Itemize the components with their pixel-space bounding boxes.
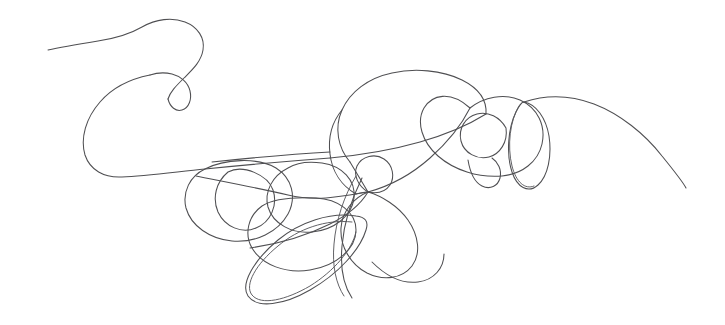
drawing-canvas bbox=[0, 0, 725, 325]
canvas-background bbox=[0, 0, 725, 325]
scribble-artwork bbox=[0, 0, 725, 325]
